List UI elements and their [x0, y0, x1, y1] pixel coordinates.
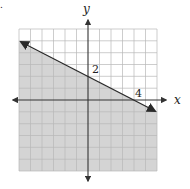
y-intercept-label: 2 — [92, 63, 99, 76]
corner-mark: . — [0, 0, 3, 10]
x-intercept-label: 4 — [135, 87, 142, 100]
x-axis-label: x — [174, 93, 181, 107]
y-axis-label: y — [82, 2, 90, 16]
inequality-graph: y x 2 4 . — [0, 0, 190, 189]
